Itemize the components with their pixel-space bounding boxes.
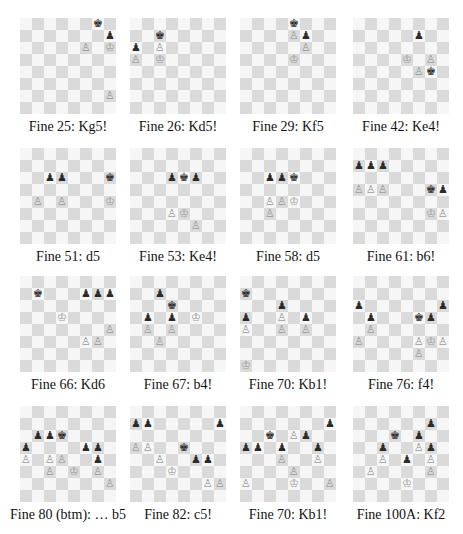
square-h3 (104, 336, 116, 348)
square-g5 (92, 312, 104, 324)
square-a4: ♙ (240, 324, 252, 336)
square-e4 (401, 196, 413, 208)
square-e4 (68, 324, 80, 336)
square-b8 (252, 276, 264, 288)
square-c5 (264, 312, 276, 324)
square-c4 (377, 66, 389, 78)
square-f6: ♟ (190, 172, 202, 184)
square-h3 (214, 208, 226, 220)
square-f1 (190, 360, 202, 372)
black-pawn-icon: ♟ (92, 288, 104, 300)
square-a5 (20, 54, 32, 66)
white-pawn-icon: ♙ (437, 336, 449, 348)
square-e7: ♙ (288, 30, 300, 42)
square-g7 (312, 418, 324, 430)
square-a5 (130, 312, 142, 324)
square-g7 (202, 160, 214, 172)
square-g3: ♙ (92, 336, 104, 348)
square-h7 (214, 160, 226, 172)
diagram-caption: Fine 29: Kf5 (252, 119, 324, 135)
square-g2 (425, 348, 437, 360)
square-c3 (264, 466, 276, 478)
black-pawn-icon: ♟ (353, 300, 365, 312)
square-c1 (154, 232, 166, 244)
square-e5 (178, 54, 190, 66)
black-king-icon: ♚ (178, 172, 190, 184)
square-e8 (68, 406, 80, 418)
square-e6 (178, 42, 190, 54)
square-c3 (377, 466, 389, 478)
square-g3 (312, 336, 324, 348)
square-f5 (80, 312, 92, 324)
square-c8 (264, 276, 276, 288)
square-c8 (44, 18, 56, 30)
square-d1 (56, 232, 68, 244)
square-a1 (130, 232, 142, 244)
chess-board: ♟♟♚♟♟♟♙♙♙♟♙♔♙♙ (20, 406, 116, 502)
square-e2 (68, 348, 80, 360)
square-b6: ♟ (32, 430, 44, 442)
square-h8 (437, 276, 449, 288)
black-king-icon: ♚ (288, 172, 300, 184)
square-c1 (377, 490, 389, 502)
square-c3 (44, 78, 56, 90)
square-d8 (389, 148, 401, 160)
square-e5 (178, 184, 190, 196)
square-f3 (190, 336, 202, 348)
square-d1 (276, 490, 288, 502)
square-g6 (202, 42, 214, 54)
square-f1 (413, 360, 425, 372)
square-d3 (56, 466, 68, 478)
diagram-caption: Fine 26: Kd5! (139, 119, 218, 135)
square-h8 (437, 148, 449, 160)
square-f6 (300, 172, 312, 184)
square-a6 (130, 300, 142, 312)
square-h2 (214, 220, 226, 232)
square-h6 (104, 300, 116, 312)
square-e4: ♟ (401, 454, 413, 466)
square-f7 (300, 160, 312, 172)
black-pawn-icon: ♟ (80, 442, 92, 454)
square-c5 (264, 54, 276, 66)
square-d2 (56, 478, 68, 490)
square-d5 (389, 312, 401, 324)
square-e8 (288, 406, 300, 418)
square-e1 (68, 232, 80, 244)
chess-board: ♟♚♟♙♔♙ (130, 148, 226, 244)
square-a3 (130, 208, 142, 220)
square-b8 (32, 148, 44, 160)
square-c1 (44, 102, 56, 114)
square-g1 (312, 490, 324, 502)
square-d4 (56, 66, 68, 78)
square-b2 (365, 348, 377, 360)
black-pawn-icon: ♟ (276, 172, 288, 184)
square-c7 (44, 30, 56, 42)
square-e8 (401, 18, 413, 30)
square-e1 (178, 102, 190, 114)
square-h4 (324, 454, 336, 466)
square-c6 (377, 42, 389, 54)
square-f4: ♙ (300, 324, 312, 336)
square-a4 (240, 196, 252, 208)
square-h6 (214, 430, 226, 442)
square-d4: ♙ (166, 324, 178, 336)
square-f4 (413, 196, 425, 208)
white-pawn-icon: ♙ (276, 454, 288, 466)
square-b3 (252, 466, 264, 478)
square-h4 (214, 66, 226, 78)
square-f2 (190, 478, 202, 490)
square-e3: ♔ (178, 208, 190, 220)
square-g7 (202, 418, 214, 430)
square-b1 (142, 490, 154, 502)
square-a8 (240, 148, 252, 160)
square-e5 (288, 442, 300, 454)
square-f7: ♟ (80, 288, 92, 300)
black-king-icon: ♚ (56, 430, 68, 442)
chess-diagram: ♟♚♟♟♔♙♙♙Fine 67: b4! (130, 276, 240, 372)
black-pawn-icon: ♟ (264, 172, 276, 184)
square-g1 (92, 232, 104, 244)
square-d7 (389, 160, 401, 172)
square-b4 (142, 454, 154, 466)
square-b6 (142, 42, 154, 54)
square-c5: ♙ (377, 184, 389, 196)
